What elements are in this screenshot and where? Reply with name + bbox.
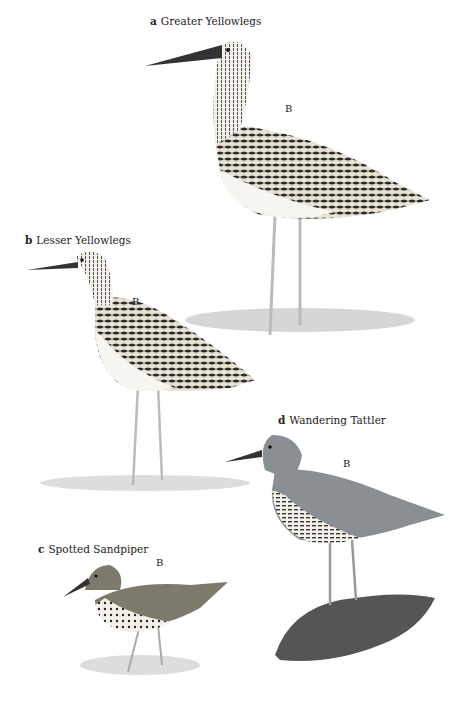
species-name: Wandering Tattler bbox=[289, 414, 386, 426]
spotted-sandpiper-illustration bbox=[63, 565, 228, 675]
species-letter: b bbox=[25, 234, 32, 246]
plumage-mark: B bbox=[343, 458, 350, 469]
plumage-mark: B bbox=[156, 557, 163, 568]
species-name: Lesser Yellowlegs bbox=[36, 234, 130, 246]
species-letter: a bbox=[150, 15, 157, 27]
species-name: Greater Yellowlegs bbox=[161, 15, 262, 27]
species-letter: c bbox=[38, 543, 44, 555]
wandering-tattler-illustration bbox=[225, 435, 445, 661]
label-spotted-sandpiper: cSpotted Sandpiper bbox=[38, 543, 148, 555]
bird-illustrations bbox=[0, 0, 469, 710]
species-name: Spotted Sandpiper bbox=[48, 543, 148, 555]
label-greater-yellowlegs: aGreater Yellowlegs bbox=[150, 15, 261, 27]
plumage-mark: B bbox=[285, 103, 292, 114]
label-wandering-tattler: dWandering Tattler bbox=[278, 414, 386, 426]
lesser-yellowlegs-illustration bbox=[27, 252, 255, 492]
greater-yellowlegs-illustration bbox=[145, 42, 430, 335]
species-letter: d bbox=[278, 414, 285, 426]
plumage-mark: B bbox=[132, 296, 139, 307]
label-lesser-yellowlegs: bLesser Yellowlegs bbox=[25, 234, 131, 246]
